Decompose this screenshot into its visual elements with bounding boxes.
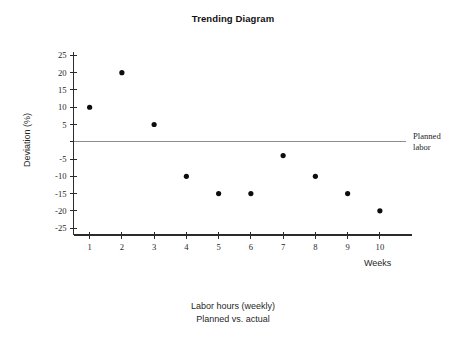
data-point <box>281 153 286 158</box>
x-tick-label: 2 <box>120 242 124 252</box>
data-point <box>119 70 124 75</box>
planned-labor-line1: Planned <box>413 131 441 142</box>
data-point <box>216 191 221 196</box>
chart-caption: Labor hours (weekly) Planned vs. actual <box>0 300 466 326</box>
chart-page: Trending Diagram 252015105-5-10-15-20-25… <box>0 0 466 339</box>
x-tick-label: 5 <box>216 242 220 252</box>
data-point <box>152 122 157 127</box>
data-point <box>313 174 318 179</box>
x-tick-label: 7 <box>281 242 286 252</box>
x-tick-label: 9 <box>345 242 349 252</box>
y-tick-label: -10 <box>55 171 66 181</box>
y-tick-label: 5 <box>62 120 66 130</box>
plot-area: 252015105-5-10-15-20-25 12345678910 Devi… <box>0 0 466 290</box>
y-tick-label: -20 <box>55 206 66 216</box>
x-tick-label: 4 <box>184 242 189 252</box>
planned-labor-line2: labor <box>413 142 441 153</box>
y-tick-label: 25 <box>58 50 67 60</box>
x-tick-label: 1 <box>87 242 91 252</box>
x-tick-label: 6 <box>249 242 254 252</box>
x-tick-label: 8 <box>313 242 317 252</box>
data-point <box>248 191 253 196</box>
x-tick-label: 3 <box>152 242 156 252</box>
y-tick-label: -25 <box>55 223 66 233</box>
y-tick-label: 15 <box>58 85 67 95</box>
data-point <box>87 105 92 110</box>
y-tick-label: 20 <box>58 68 67 78</box>
y-tick-label: 10 <box>58 102 67 112</box>
y-axis-label: Deviation (%) <box>22 90 32 190</box>
y-tick-label: -5 <box>59 154 66 164</box>
data-point <box>377 208 382 213</box>
data-point <box>345 191 350 196</box>
x-tick-label: 10 <box>376 242 385 252</box>
x-axis-label: Weeks <box>364 258 391 268</box>
caption-line-1: Labor hours (weekly) <box>0 300 466 313</box>
caption-line-2: Planned vs. actual <box>0 313 466 326</box>
scatter-plot-svg: 252015105-5-10-15-20-25 12345678910 <box>0 0 466 290</box>
data-point <box>184 174 189 179</box>
y-tick-label: -15 <box>55 189 66 199</box>
planned-labor-annotation: Planned labor <box>413 131 441 153</box>
